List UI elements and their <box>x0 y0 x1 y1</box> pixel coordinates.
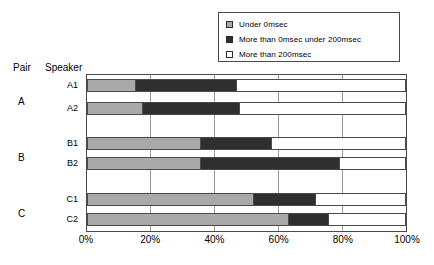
xtick-20: 20% <box>140 234 160 246</box>
bar-segment <box>329 214 405 225</box>
speaker-label-b1: B1 <box>52 138 78 148</box>
bar-segment <box>88 103 143 114</box>
speaker-column-header: Speaker <box>45 62 82 73</box>
pair-column-header: Pair <box>13 62 31 73</box>
bar-b1 <box>87 137 406 150</box>
bar-segment <box>88 80 136 91</box>
bar-segment <box>240 103 405 114</box>
xtick-80: 80% <box>333 234 353 246</box>
speaker-label-c1: C1 <box>52 194 78 204</box>
bar-b2 <box>87 157 406 170</box>
bar-segment <box>289 214 329 225</box>
xtick-0: 0% <box>79 234 93 246</box>
bar-c2 <box>87 213 406 226</box>
speaker-label-b2: B2 <box>52 158 78 168</box>
chart-legend: Under 0msec More than 0msec under 200mse… <box>218 12 400 62</box>
xtick-40: 40% <box>204 234 224 246</box>
gridline-20 <box>150 75 151 231</box>
bar-segment <box>143 103 240 114</box>
bar-segment <box>340 158 405 169</box>
legend-item: Under 0msec <box>226 17 393 31</box>
pair-label-c: C <box>18 208 25 219</box>
white-swatch-icon <box>226 51 233 58</box>
bar-segment <box>254 194 316 205</box>
chart-plot-area <box>86 74 407 232</box>
bar-segment <box>88 214 289 225</box>
bar-segment <box>88 138 201 149</box>
speaker-label-a2: A2 <box>52 103 78 113</box>
bar-segment <box>88 158 201 169</box>
bar-segment <box>201 158 340 169</box>
legend-item: More than 0msec under 200msec <box>226 32 393 46</box>
legend-item-label: Under 0msec <box>239 20 288 29</box>
bar-segment <box>237 80 405 91</box>
pair-label-a: A <box>18 96 25 107</box>
dark-gray-swatch-icon <box>226 36 233 43</box>
bar-segment <box>136 80 237 91</box>
bar-a1 <box>87 79 406 92</box>
bar-segment <box>88 194 254 205</box>
pair-label-b: B <box>18 152 25 163</box>
gridline-60 <box>278 75 279 231</box>
bar-segment <box>316 194 405 205</box>
speaker-label-c2: C2 <box>52 214 78 224</box>
xtick-100: 100% <box>394 234 420 246</box>
xtick-60: 60% <box>269 234 289 246</box>
legend-item-label: More than 200msec <box>239 50 311 59</box>
legend-item-label: More than 0msec under 200msec <box>239 35 361 44</box>
x-axis: 0% 20% 40% 60% 80% 100% <box>86 234 407 250</box>
bar-c1 <box>87 193 406 206</box>
bar-a2 <box>87 102 406 115</box>
light-gray-swatch-icon <box>226 21 233 28</box>
legend-item: More than 200msec <box>226 47 393 61</box>
gridline-40 <box>214 75 215 231</box>
bar-segment <box>272 138 405 149</box>
speaker-label-a1: A1 <box>52 80 78 90</box>
bar-segment <box>201 138 272 149</box>
gridline-80 <box>342 75 343 231</box>
